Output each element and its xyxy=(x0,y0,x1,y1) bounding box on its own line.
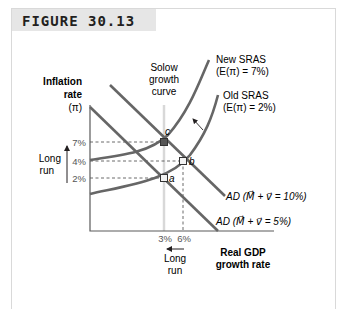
svg-text:(π): (π) xyxy=(68,102,82,113)
point-b-label: b xyxy=(189,156,195,167)
svg-text:3%: 3% xyxy=(158,233,172,244)
svg-text:growth: growth xyxy=(149,74,179,85)
x-axis-label: Real GDP growth rate xyxy=(216,247,271,270)
svg-text:Solow: Solow xyxy=(150,62,178,73)
svg-text:Old SRAS: Old SRAS xyxy=(223,90,269,101)
new-sras-label: New SRAS (E(π) = 7%) xyxy=(216,54,269,77)
point-c xyxy=(161,139,168,146)
x-ticks: 3% 6% xyxy=(158,233,191,244)
svg-text:run: run xyxy=(40,165,54,176)
svg-text:Inflation: Inflation xyxy=(43,76,82,87)
point-c-label: c xyxy=(165,126,170,137)
svg-text:7%: 7% xyxy=(72,137,86,148)
point-b xyxy=(180,158,187,165)
y-axis-label: Inflation rate (π) xyxy=(43,76,82,113)
svg-text:2%: 2% xyxy=(72,173,86,184)
svg-text:(E(π) = 2%): (E(π) = 2%) xyxy=(223,102,276,113)
svg-text:curve: curve xyxy=(152,86,177,97)
svg-text:4%: 4% xyxy=(72,156,86,167)
point-a xyxy=(161,175,168,182)
x-long-run-label: Long run xyxy=(164,253,186,276)
ad-10-label: AD (M⃗ + v⃗ = 10%) xyxy=(225,190,307,202)
svg-text:Real GDP: Real GDP xyxy=(220,247,266,258)
svg-text:(E(π) = 7%): (E(π) = 7%) xyxy=(216,66,269,77)
y-ticks: 7% 4% 2% xyxy=(72,137,86,184)
sras-shift-arrow xyxy=(193,119,203,130)
dashed-guides xyxy=(90,142,183,231)
svg-text:New SRAS: New SRAS xyxy=(216,54,266,65)
svg-text:Long: Long xyxy=(164,253,186,264)
svg-text:rate: rate xyxy=(64,89,83,100)
ad-5-label: AD (M⃗ + v⃗ = 5%) xyxy=(215,215,291,227)
svg-text:growth rate: growth rate xyxy=(216,259,271,270)
svg-text:run: run xyxy=(168,265,182,276)
y-long-run-label: Long run xyxy=(39,153,61,176)
svg-text:6%: 6% xyxy=(177,233,191,244)
axes xyxy=(90,105,274,231)
old-sras-label: Old SRAS (E(π) = 2%) xyxy=(223,90,276,113)
solow-label: Solow growth curve xyxy=(149,62,179,97)
point-a-label: a xyxy=(169,173,175,184)
svg-text:Long: Long xyxy=(39,153,61,164)
